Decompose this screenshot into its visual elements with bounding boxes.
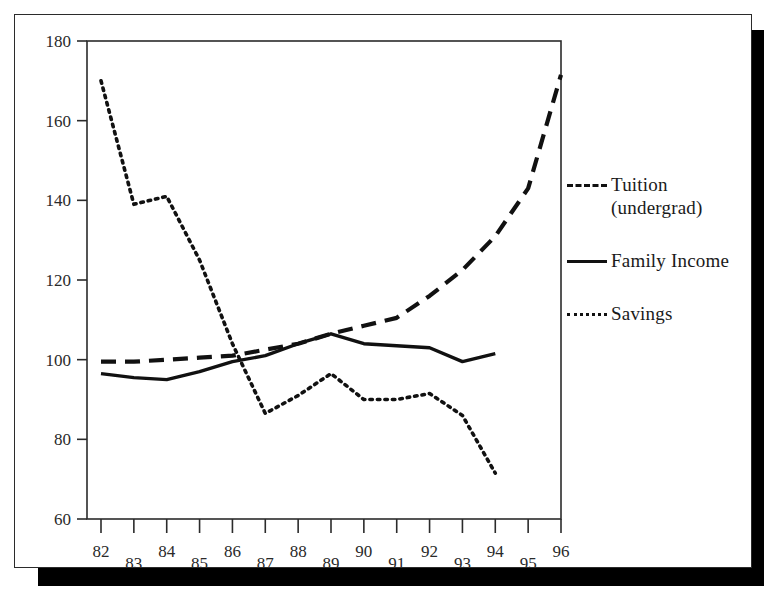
dotted-line-key: [567, 313, 611, 316]
legend-label-tuition-line1: Tuition: [611, 174, 668, 195]
svg-text:80: 80: [54, 430, 71, 449]
series-line-tuition-undergrad: [101, 75, 561, 362]
svg-text:160: 160: [46, 112, 72, 131]
svg-text:95: 95: [520, 554, 537, 567]
series-line-family-income: [101, 334, 495, 380]
plot-frame: [87, 41, 561, 519]
svg-text:87: 87: [257, 554, 275, 567]
legend-label-tuition: Tuition (undergrad): [611, 173, 703, 219]
x-axis-ticks: [101, 519, 561, 533]
legend-item-family-income[interactable]: Family Income: [567, 249, 747, 272]
svg-text:88: 88: [290, 542, 307, 561]
data-series-group: [101, 75, 561, 473]
legend-label-tuition-line2: (undergrad): [611, 197, 703, 218]
svg-text:93: 93: [454, 554, 471, 567]
svg-text:84: 84: [158, 542, 176, 561]
svg-text:60: 60: [54, 510, 71, 529]
svg-text:90: 90: [355, 542, 372, 561]
svg-text:82: 82: [93, 542, 110, 561]
svg-text:92: 92: [421, 542, 438, 561]
legend-item-tuition[interactable]: Tuition (undergrad): [567, 173, 747, 219]
y-axis-tick-labels: 1801601401201008060: [46, 32, 72, 529]
svg-text:86: 86: [224, 542, 241, 561]
svg-text:85: 85: [191, 554, 208, 567]
svg-text:100: 100: [46, 351, 72, 370]
x-axis-tick-labels: 828384858687888990919293949596: [93, 542, 570, 567]
svg-text:180: 180: [46, 32, 72, 51]
legend-label-savings: Savings: [611, 302, 673, 325]
figure-card: 1801601401201008060 82838485868788899091…: [14, 14, 752, 568]
legend-label-family-income: Family Income: [611, 249, 729, 272]
svg-text:89: 89: [323, 554, 340, 567]
svg-text:96: 96: [553, 542, 570, 561]
legend-item-savings[interactable]: Savings: [567, 302, 747, 325]
dashed-line-key: [567, 184, 611, 187]
y-axis-ticks: [77, 41, 87, 519]
svg-text:91: 91: [388, 554, 405, 567]
svg-text:94: 94: [487, 542, 505, 561]
solid-line-key: [567, 260, 611, 263]
series-line-savings: [101, 81, 495, 473]
chart-legend: Tuition (undergrad) Family Income Saving…: [567, 173, 747, 355]
svg-text:83: 83: [125, 554, 142, 567]
svg-text:140: 140: [46, 191, 72, 210]
svg-text:120: 120: [46, 271, 72, 290]
